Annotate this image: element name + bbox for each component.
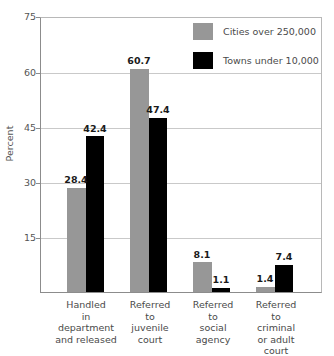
bar-value-towns-referred-to-juvenile-court: 47.4 (135, 104, 181, 115)
y-tick-label-60: 60 (0, 68, 36, 78)
bar-value-cities-referred-to-juvenile-court: 60.7 (116, 55, 162, 66)
legend-label-towns: Towns under 10,000 (223, 55, 319, 66)
legend-swatch-cities-icon (193, 23, 213, 40)
bar-value-cities-referred-to-criminal-or-adult-court: 1.4 (243, 273, 287, 284)
bar-cities-handled-in-department-and-released[interactable] (67, 188, 86, 293)
bar-value-cities-handled-in-department-and-released: 28.4 (53, 174, 99, 185)
y-tick-label-45: 45 (0, 123, 36, 133)
bar-value-towns-referred-to-social-agency: 1.1 (199, 274, 243, 285)
legend-item-cities[interactable]: Cities over 250,000 (193, 21, 328, 42)
bar-value-towns-handled-in-department-and-released: 42.4 (72, 123, 118, 134)
legend-swatch-towns-icon (193, 52, 213, 69)
bar-towns-referred-to-social-agency[interactable] (212, 288, 230, 292)
bar-towns-handled-in-department-and-released[interactable] (86, 136, 104, 292)
bar-cities-referred-to-juvenile-court[interactable] (130, 69, 149, 292)
bar-value-towns-referred-to-criminal-or-adult-court: 7.4 (262, 251, 306, 262)
legend-item-towns[interactable]: Towns under 10,000 (193, 50, 328, 71)
bar-towns-referred-to-juvenile-court[interactable] (149, 118, 167, 292)
bar-cities-referred-to-criminal-or-adult-court[interactable] (256, 287, 275, 292)
bar-chart: Percent 75 60 45 30 15 28.4 42.4 60.7 47… (0, 0, 334, 356)
y-tick-label-15: 15 (0, 233, 36, 243)
legend-label-cities: Cities over 250,000 (223, 26, 316, 37)
bar-value-cities-referred-to-social-agency: 8.1 (180, 249, 224, 260)
legend: Cities over 250,000 Towns under 10,000 (193, 21, 328, 79)
plot-area: 28.4 42.4 60.7 47.4 8.1 1.1 1.4 7.4 Citi… (40, 17, 322, 293)
y-tick-label-30: 30 (0, 178, 36, 188)
x-category-label-referred-to-criminal-or-adult-court: Referred to criminal or adult court (238, 299, 314, 356)
y-tick-label-75: 75 (0, 12, 36, 22)
